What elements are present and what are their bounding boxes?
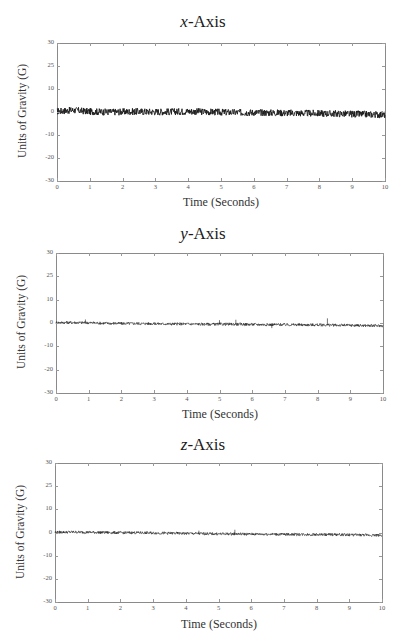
y-tick-label: 25 xyxy=(32,61,54,68)
x-tick-label: 7 xyxy=(276,604,292,611)
x-tick-label: 10 xyxy=(374,604,390,611)
x-tick-label: 1 xyxy=(82,183,98,190)
x-tick-label: 2 xyxy=(112,604,128,611)
y-tick-mark xyxy=(379,509,382,510)
y-tick-label: 30 xyxy=(31,248,53,255)
x-tick-mark xyxy=(385,43,386,46)
x-tick-mark xyxy=(352,178,353,181)
y-tick-label: -30 xyxy=(32,176,54,183)
x-tick-mark xyxy=(287,43,288,46)
x-tick-label: 8 xyxy=(311,183,327,190)
x-tick-label: 4 xyxy=(178,604,194,611)
x-tick-mark xyxy=(287,178,288,181)
y-tick-mark xyxy=(382,181,385,182)
y-tick-mark xyxy=(382,66,385,67)
x-tick-label: 6 xyxy=(243,604,259,611)
x-tick-mark xyxy=(90,178,91,181)
x-tick-mark xyxy=(57,43,58,46)
x-tick-label: 7 xyxy=(279,183,295,190)
y-tick-label: 0 xyxy=(32,107,54,114)
x-tick-mark xyxy=(285,390,286,393)
x-tick-label: 5 xyxy=(211,604,227,611)
y-tick-mark xyxy=(55,579,58,580)
y-tick-mark xyxy=(379,579,382,580)
y-tick-mark xyxy=(55,509,58,510)
chart-y-axis: y-Axis Units of Gravity (G) Time (Second… xyxy=(0,210,406,430)
x-tick-mark xyxy=(382,463,383,466)
x-tick-mark xyxy=(154,253,155,256)
x-tick-mark xyxy=(155,43,156,46)
y-tick-label: 10 xyxy=(31,295,53,302)
x-tick-mark xyxy=(55,599,56,602)
x-tick-label: 2 xyxy=(113,395,129,402)
y-tick-mark xyxy=(56,346,59,347)
x-tick-mark xyxy=(187,253,188,256)
x-tick-label: 9 xyxy=(344,183,360,190)
x-tick-mark xyxy=(349,599,350,602)
x-tick-mark xyxy=(121,253,122,256)
x-tick-mark xyxy=(350,253,351,256)
x-tick-label: 8 xyxy=(309,604,325,611)
y-tick-label: -20 xyxy=(32,153,54,160)
chart-z-axis: z-Axis Units of Gravity (G) Time (Second… xyxy=(0,420,406,644)
y-tick-label: -30 xyxy=(31,388,53,395)
x-tick-mark xyxy=(90,43,91,46)
x-tick-mark xyxy=(318,390,319,393)
y-tick-mark xyxy=(55,486,58,487)
x-tick-mark xyxy=(318,253,319,256)
y-tick-mark xyxy=(380,276,383,277)
x-tick-label: 10 xyxy=(375,395,391,402)
x-tick-mark xyxy=(382,599,383,602)
y-tick-label: -10 xyxy=(31,341,53,348)
x-tick-mark xyxy=(254,178,255,181)
x-tick-mark xyxy=(319,178,320,181)
y-tick-mark xyxy=(55,533,58,534)
x-tick-mark xyxy=(57,178,58,181)
x-tick-label: 6 xyxy=(246,183,262,190)
y-tick-mark xyxy=(57,158,60,159)
y-tick-label: 10 xyxy=(32,84,54,91)
y-tick-mark xyxy=(380,346,383,347)
y-tick-mark xyxy=(57,112,60,113)
y-tick-mark xyxy=(382,158,385,159)
x-tick-label: 3 xyxy=(147,183,163,190)
x-tick-label: 6 xyxy=(244,395,260,402)
x-tick-mark xyxy=(349,463,350,466)
series-line xyxy=(57,107,385,118)
x-tick-label: 9 xyxy=(341,604,357,611)
x-tick-mark xyxy=(120,599,121,602)
x-tick-mark xyxy=(123,43,124,46)
x-tick-mark xyxy=(220,390,221,393)
y-tick-mark xyxy=(379,556,382,557)
x-tick-label: 1 xyxy=(80,604,96,611)
x-tick-label: 5 xyxy=(212,395,228,402)
x-tick-label: 3 xyxy=(146,395,162,402)
y-tick-mark xyxy=(379,533,382,534)
x-tick-mark xyxy=(221,43,222,46)
x-tick-mark xyxy=(219,463,220,466)
x-tick-mark xyxy=(120,463,121,466)
x-tick-mark xyxy=(154,390,155,393)
x-tick-label: 1 xyxy=(81,395,97,402)
x-tick-mark xyxy=(352,43,353,46)
y-tick-label: 0 xyxy=(30,528,52,535)
y-tick-mark xyxy=(57,135,60,136)
y-tick-mark xyxy=(56,300,59,301)
x-tick-label: 0 xyxy=(49,183,65,190)
x-tick-label: 5 xyxy=(213,183,229,190)
y-tick-mark xyxy=(55,602,58,603)
x-tick-mark xyxy=(56,253,57,256)
y-tick-mark xyxy=(57,181,60,182)
x-tick-mark xyxy=(88,463,89,466)
y-tick-mark xyxy=(57,89,60,90)
x-tick-mark xyxy=(153,599,154,602)
x-tick-mark xyxy=(319,43,320,46)
x-tick-mark xyxy=(186,463,187,466)
x-tick-label: 4 xyxy=(179,395,195,402)
y-tick-label: 10 xyxy=(30,504,52,511)
y-tick-mark xyxy=(382,89,385,90)
y-tick-mark xyxy=(382,112,385,113)
y-tick-label: -20 xyxy=(30,574,52,581)
x-tick-label: 0 xyxy=(47,604,63,611)
y-tick-label: 25 xyxy=(31,271,53,278)
